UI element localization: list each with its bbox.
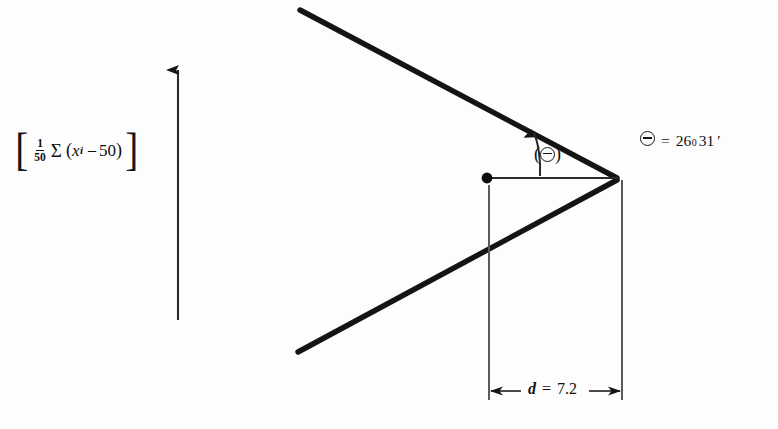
paren-close: )	[116, 141, 122, 159]
dimension-equals-sign: =	[542, 381, 551, 397]
theta-minutes-value: 31	[699, 133, 715, 149]
sigma-symbol: Σ	[51, 141, 62, 160]
theta-degrees-value: 26	[676, 133, 692, 149]
theta-icon	[540, 147, 555, 162]
bracket-close: ]	[125, 131, 138, 169]
degree-sign: 0	[692, 138, 697, 148]
upper-arm-line	[300, 10, 617, 178]
diagram-graphics	[0, 0, 778, 429]
minus-sign: –	[88, 142, 95, 158]
fraction-numerator: 1	[36, 137, 44, 151]
dimension-variable: d	[528, 381, 536, 397]
subscript-i: i	[80, 145, 83, 156]
variable-x: x	[72, 142, 80, 159]
figure-canvas: [ 1 50 Σ ( x i – 50 ) ] ( ) = 26 0 31 ′ …	[0, 0, 778, 429]
bracket-open: [	[15, 131, 28, 169]
angle-paren-close: )	[555, 145, 561, 163]
theta-value-label: = 26 0 31 ′	[640, 131, 721, 149]
constant-fifty: 50	[99, 142, 116, 159]
dimension-d-label: d = 7.2	[528, 381, 577, 397]
y-axis-expression-label: [ 1 50 Σ ( x i – 50 ) ]	[14, 128, 139, 172]
minute-prime-sign: ′	[717, 134, 720, 149]
reference-point-dot	[482, 173, 493, 184]
theta-icon	[640, 131, 655, 146]
angle-theta-label: ( )	[534, 145, 561, 163]
fraction-denominator: 50	[34, 151, 46, 164]
fraction-one-over-fifty: 1 50	[34, 137, 46, 163]
dimension-value: 7.2	[557, 381, 577, 397]
lower-arm-line	[298, 180, 617, 352]
theta-equals-sign: =	[661, 133, 670, 149]
